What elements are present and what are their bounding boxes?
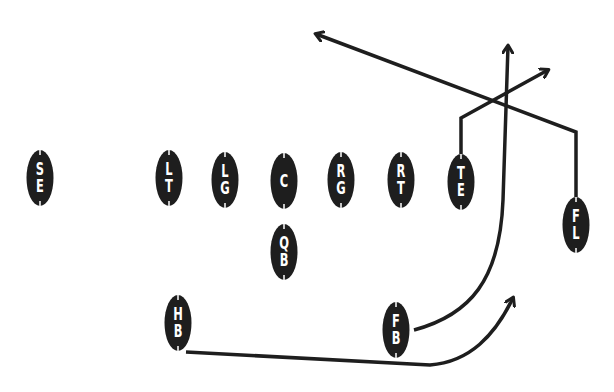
player-te: TE bbox=[448, 154, 475, 210]
player-label-line2: E bbox=[36, 178, 44, 195]
player-rg: RG bbox=[328, 152, 355, 208]
play-diagram bbox=[0, 0, 614, 392]
ball-seam bbox=[575, 197, 577, 202]
ball-seam bbox=[400, 152, 402, 157]
player-label-line2: B bbox=[392, 330, 401, 347]
player-hb: HB bbox=[165, 295, 192, 351]
player-label-line2: L bbox=[572, 225, 579, 242]
ball-seam bbox=[283, 153, 285, 158]
ball-seam bbox=[224, 152, 226, 157]
player-label-line2: B bbox=[280, 252, 289, 269]
ball-seam bbox=[168, 150, 170, 155]
route-fl-arrow bbox=[316, 34, 576, 197]
player-c: C bbox=[271, 153, 298, 209]
route-hb-arrow bbox=[186, 298, 513, 365]
ball-seam bbox=[460, 205, 462, 210]
ball-seam bbox=[224, 203, 226, 208]
ball-seam bbox=[177, 295, 179, 300]
ball-seam bbox=[283, 275, 285, 280]
ball-seam bbox=[39, 201, 41, 206]
player-label-line2: T bbox=[165, 178, 173, 195]
player-qb: QB bbox=[271, 224, 298, 280]
ball-seam bbox=[575, 248, 577, 253]
route-lines bbox=[186, 34, 576, 365]
player-label-line2: G bbox=[336, 180, 345, 197]
player-lg: LG bbox=[212, 152, 239, 208]
player-fl: FL bbox=[563, 197, 590, 253]
ball-seam bbox=[168, 201, 170, 206]
player-label-line2: G bbox=[220, 180, 229, 197]
ball-seam bbox=[283, 224, 285, 229]
ball-seam bbox=[395, 302, 397, 307]
player-label-line2: B bbox=[174, 323, 183, 340]
player-label-line2: T bbox=[397, 180, 405, 197]
player-lt: LT bbox=[156, 150, 183, 206]
ball-seam bbox=[400, 203, 402, 208]
player-fb: FB bbox=[383, 302, 410, 358]
ball-seam bbox=[395, 353, 397, 358]
ball-seam bbox=[39, 150, 41, 155]
ball-seam bbox=[460, 154, 462, 159]
ball-seam bbox=[340, 152, 342, 157]
player-rt: RT bbox=[388, 152, 415, 208]
ball-seam bbox=[340, 203, 342, 208]
player-label-line1: C bbox=[280, 173, 288, 190]
player-label-line2: E bbox=[457, 182, 465, 199]
ball-seam bbox=[283, 204, 285, 209]
ball-seam bbox=[177, 346, 179, 351]
player-se: SE bbox=[27, 150, 54, 206]
